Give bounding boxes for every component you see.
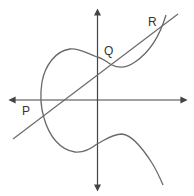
diagram-canvas: [0, 0, 194, 196]
point-label-q: Q: [104, 45, 113, 57]
point-label-r: R: [148, 16, 157, 28]
point-label-p: P: [22, 105, 30, 117]
secant-line: [13, 14, 178, 139]
